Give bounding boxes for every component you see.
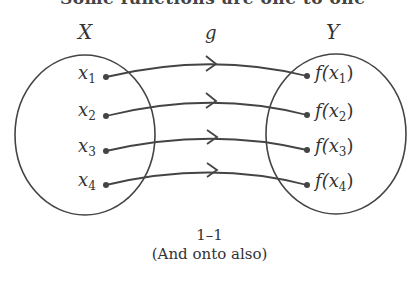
codomain-element: f(x3) bbox=[315, 135, 354, 156]
arrow-x3 bbox=[106, 139, 307, 151]
domain-element: x1 bbox=[78, 62, 96, 83]
arrow-x4 bbox=[106, 173, 307, 186]
codomain-element: f(x1) bbox=[315, 62, 354, 83]
domain-element: x3 bbox=[78, 135, 96, 156]
arrowhead-icon bbox=[207, 163, 217, 177]
caption-mapping-type: 1–1 bbox=[0, 226, 419, 244]
arrowhead-icon bbox=[206, 93, 216, 108]
domain-element: x4 bbox=[78, 169, 96, 190]
mapping-arrows bbox=[106, 56, 307, 185]
codomain-element: f(x4) bbox=[315, 170, 354, 191]
domain-element: x2 bbox=[78, 99, 96, 120]
codomain-label: Y bbox=[326, 20, 339, 44]
arrowhead-icon bbox=[207, 130, 217, 144]
element-dots bbox=[103, 73, 310, 188]
function-label: g bbox=[205, 22, 217, 43]
domain-label: X bbox=[78, 20, 92, 44]
caption-note: (And onto also) bbox=[0, 245, 419, 263]
codomain-element: f(x2) bbox=[315, 100, 354, 121]
arrow-x2 bbox=[106, 103, 307, 116]
